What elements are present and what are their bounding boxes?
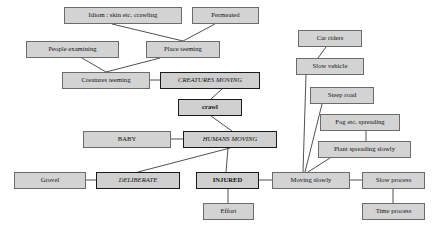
node-injured[interactable]: INJURED	[196, 172, 259, 189]
node-label-slowveh: Slow vehicle	[313, 63, 348, 70]
node-permeated[interactable]: Permeated	[192, 7, 259, 24]
node-label-people: People examining	[48, 46, 96, 53]
node-delib[interactable]: DELIBERATE	[96, 172, 180, 189]
node-grovel[interactable]: Grovel	[14, 172, 86, 189]
node-label-creatm: CREATURES MOVING	[178, 77, 242, 84]
edge-carriders-to-slowveh	[318, 47, 326, 58]
edge-people-to-creatt	[82, 58, 106, 72]
node-label-place: Place teeming	[164, 46, 202, 53]
node-label-permeated: Permeated	[211, 12, 239, 19]
node-movslow[interactable]: Moving slowly	[272, 172, 350, 189]
node-timeproc[interactable]: Time process	[362, 203, 425, 220]
node-creatt[interactable]: Creatures teeming	[62, 72, 150, 89]
node-plant[interactable]: Plant spreading slowly	[318, 141, 411, 158]
node-baby[interactable]: BABY	[83, 131, 171, 148]
node-idiom[interactable]: Idiom : skin etc. crawling	[64, 7, 182, 24]
node-label-grovel: Grovel	[41, 177, 60, 184]
node-people[interactable]: People examining	[26, 41, 119, 58]
node-creatm[interactable]: CREATURES MOVING	[160, 72, 260, 89]
node-label-movslow: Moving slowly	[291, 177, 332, 184]
node-crawl[interactable]: crawl	[178, 99, 242, 116]
node-label-injured: INJURED	[213, 177, 243, 184]
edge-permeated-to-place	[183, 24, 215, 41]
node-label-plant: Plant spreading slowly	[334, 146, 395, 153]
node-label-fog: Fog etc. spreading	[335, 119, 384, 126]
node-label-steep: Steep road	[328, 92, 357, 99]
node-label-crawl: crawl	[202, 104, 218, 111]
edge-creatm-to-crawl	[211, 89, 222, 99]
node-effort[interactable]: Effort	[203, 203, 254, 220]
edge-humans-to-injured	[226, 148, 228, 172]
edge-crawl-to-humans	[211, 116, 232, 131]
edge-plant-to-movslow	[308, 158, 330, 172]
node-label-idiom: Idiom : skin etc. crawling	[89, 12, 158, 19]
edge-slowveh-to-movslow	[303, 75, 306, 172]
edge-place-to-creatt	[106, 58, 160, 72]
node-slowproc[interactable]: Slow process	[362, 172, 425, 189]
node-label-timeproc: Time process	[376, 208, 412, 215]
node-label-effort: Effort	[221, 208, 237, 215]
node-slowveh[interactable]: Slow vehicle	[296, 58, 364, 75]
node-label-baby: BABY	[118, 136, 137, 143]
node-label-slowproc: Slow process	[376, 177, 412, 184]
semantic-network-diagram: Idiom : skin etc. crawlingPermeatedCar r…	[0, 0, 432, 233]
node-fog[interactable]: Fog etc. spreading	[320, 114, 400, 131]
node-carriders[interactable]: Car riders	[298, 30, 362, 47]
node-steep[interactable]: Steep road	[310, 87, 374, 104]
edge-humans-to-delib	[138, 148, 230, 172]
node-label-carriders: Car riders	[317, 35, 344, 42]
node-label-humans: HUMANS MOVING	[203, 136, 258, 143]
edge-idiom-to-place	[112, 24, 183, 41]
node-label-creatt: Creatures teeming	[81, 77, 130, 84]
node-label-delib: DELIBERATE	[119, 177, 158, 184]
node-place[interactable]: Place teeming	[146, 41, 220, 58]
node-humans[interactable]: HUMANS MOVING	[183, 131, 277, 148]
